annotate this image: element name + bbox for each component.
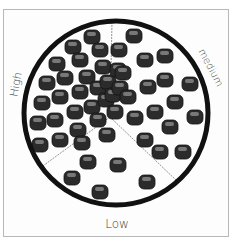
particle-medium: [140, 80, 156, 94]
particle-medium: [126, 29, 142, 43]
particle-high: [84, 100, 100, 114]
particle-high: [39, 76, 55, 90]
particle-medium: [182, 77, 198, 91]
region-label-low: Low: [100, 217, 134, 231]
particle-high: [90, 113, 106, 127]
particle-high: [92, 43, 108, 57]
particle-medium: [187, 110, 203, 124]
particle-high: [72, 53, 88, 67]
particle-medium: [137, 53, 153, 67]
particle-low: [99, 128, 115, 142]
particle-low: [80, 155, 96, 169]
particle-low: [64, 171, 80, 185]
particle-medium: [162, 120, 178, 134]
particle-low: [139, 175, 155, 189]
particle-medium: [157, 49, 173, 63]
particle-medium: [127, 111, 143, 125]
particle-medium: [111, 43, 127, 57]
particle-high: [47, 113, 63, 127]
particle-medium: [157, 73, 173, 87]
particle-medium: [175, 145, 191, 159]
particle-medium: [167, 95, 183, 109]
particle-high: [52, 133, 68, 147]
particle-high: [70, 123, 86, 137]
particle-high: [65, 40, 81, 54]
particle-high: [67, 105, 83, 119]
particle-low: [92, 185, 108, 199]
particle-medium: [120, 90, 136, 104]
particle-high: [95, 60, 111, 74]
particle-medium: [137, 133, 153, 147]
particle-medium: [115, 66, 131, 80]
particle-medium: [147, 105, 163, 119]
particle-low: [110, 158, 126, 172]
particle-high: [49, 57, 65, 71]
particle-high: [34, 96, 50, 110]
particle-high: [30, 116, 46, 130]
particle-high: [107, 105, 123, 119]
density-diagram: [0, 0, 231, 241]
particles: [30, 29, 203, 199]
particle-high: [57, 71, 73, 85]
particle-high: [72, 85, 88, 99]
particle-high: [52, 90, 68, 104]
particle-high: [74, 136, 90, 150]
particle-medium: [152, 145, 168, 159]
particle-high: [84, 30, 100, 44]
